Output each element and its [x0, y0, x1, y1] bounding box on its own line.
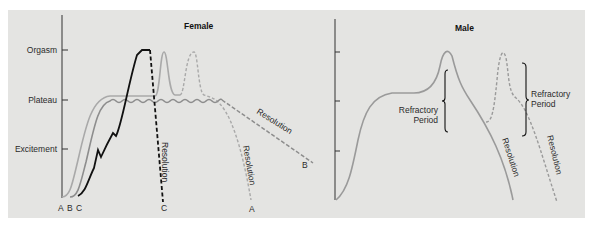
male-curve — [336, 51, 513, 200]
label-end-b: B — [302, 160, 308, 170]
curve-b — [70, 99, 222, 197]
label-start-c: C — [76, 203, 82, 213]
female-title: Female — [184, 21, 214, 31]
label-start-a: A — [58, 203, 64, 213]
curve-b-resolution — [222, 100, 313, 163]
resolution-b-label: Resolution — [255, 106, 295, 136]
female-graph: Female Orgasm Plateau Excitement Resolut… — [15, 15, 313, 214]
male-title: Male — [455, 23, 474, 33]
curve-c — [78, 50, 150, 196]
refractory-brace-2 — [522, 63, 529, 136]
resolution-c-label: Resolution — [160, 142, 170, 182]
label-end-c: C — [161, 203, 167, 213]
refractory-brace-1 — [442, 70, 448, 132]
male-curve-second-cycle — [486, 53, 557, 202]
label-plateau: Plateau — [28, 95, 57, 105]
refractory-1-line1: Refractory — [399, 105, 439, 115]
refractory-1-line2: Period — [413, 115, 438, 125]
sexual-response-cycle-diagram: Female Orgasm Plateau Excitement Resolut… — [0, 0, 592, 225]
refractory-2-line2: Period — [531, 99, 556, 109]
curve-a-resolution — [180, 52, 251, 200]
male-resolution-1-label: Resolution — [500, 137, 522, 179]
label-orgasm: Orgasm — [27, 45, 57, 55]
label-end-a: A — [249, 204, 255, 214]
label-excitement: Excitement — [15, 144, 58, 154]
label-start-b: B — [67, 203, 73, 213]
refractory-2-line1: Refractory — [531, 89, 571, 99]
male-graph: Male Refractory Period Refractory Period… — [335, 19, 571, 202]
male-resolution-2-label: Resolution — [545, 134, 564, 176]
